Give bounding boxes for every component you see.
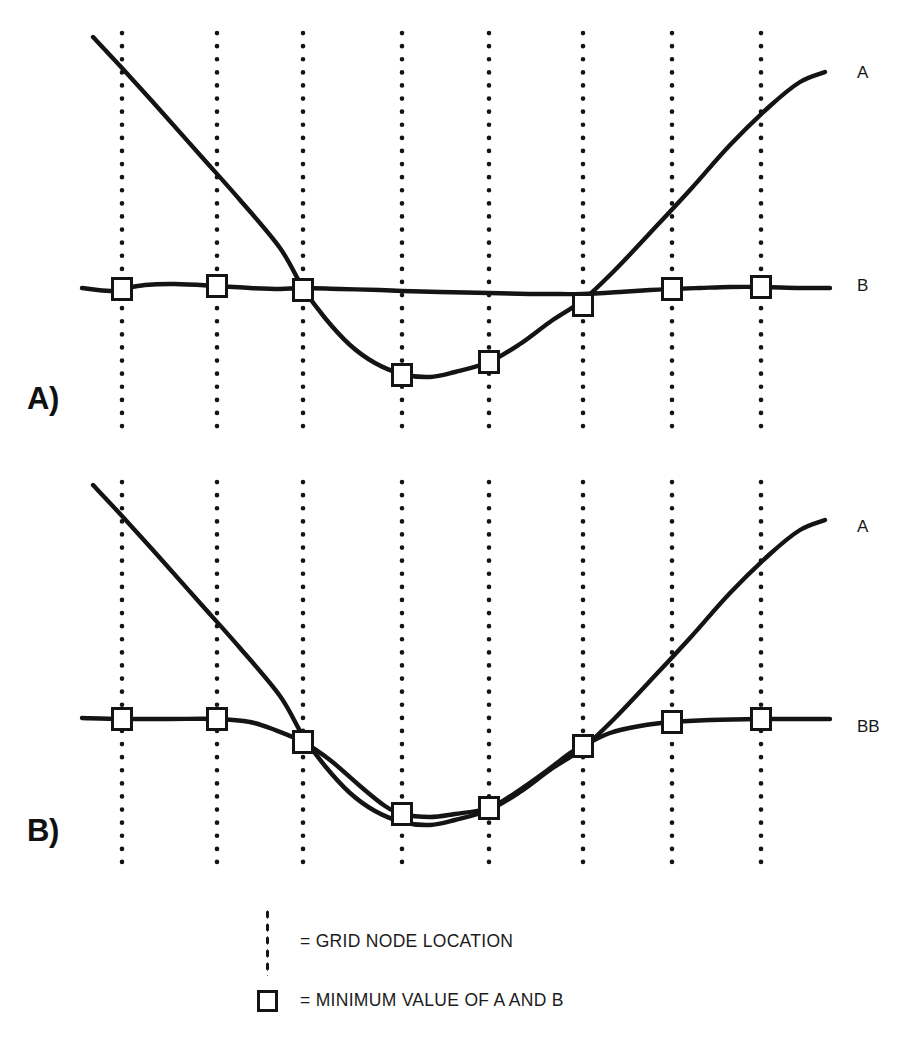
minimum-value-marker-a-2 <box>208 276 227 297</box>
curve-b-a <box>93 485 825 825</box>
minimum-value-marker-b-6 <box>574 736 593 757</box>
marker-group-b <box>113 709 771 825</box>
curve-a-b <box>82 284 830 294</box>
legend-item-grid-node: = GRID NODE LOCATION <box>250 908 513 976</box>
minimum-value-marker-a-7 <box>663 279 682 300</box>
minimum-value-grid-figure: A) A B B) A BB = GRID NODE LOCATION = MI… <box>0 0 911 1057</box>
minimum-value-marker-a-6 <box>574 295 593 316</box>
minimum-value-marker-b-5 <box>480 798 499 819</box>
legend-item-grid-node-label: = GRID NODE LOCATION <box>300 933 513 951</box>
panel-b-curve-label-bb: BB <box>857 718 880 735</box>
series-group-a <box>82 37 830 377</box>
legend-item-minimum-value-label: = MINIMUM VALUE OF A AND B <box>300 992 564 1010</box>
minimum-value-marker-a-4 <box>393 365 412 386</box>
panel-a-curve-label-b: B <box>857 277 868 294</box>
panel-a-curve-label-a: A <box>857 64 868 81</box>
curve-a-a <box>93 37 825 377</box>
minimum-value-marker-a-3 <box>294 280 313 301</box>
panel-a-plot <box>0 0 911 455</box>
grid-node-dotted-line-icon <box>250 908 284 976</box>
legend: = GRID NODE LOCATION = MINIMUM VALUE OF … <box>0 880 911 1040</box>
series-group-b <box>82 485 830 825</box>
minimum-value-marker-b-1 <box>113 709 132 730</box>
grid-node-columns <box>122 482 761 862</box>
minimum-value-square-icon <box>250 990 284 1012</box>
minimum-value-marker-b-4 <box>393 804 412 825</box>
panel-a: A) A B <box>0 0 911 455</box>
minimum-value-marker-a-8 <box>752 277 771 298</box>
panel-b-curve-label-a: A <box>857 518 868 535</box>
minimum-value-marker-b-2 <box>208 709 227 730</box>
panel-a-caption: A) <box>27 383 59 414</box>
panel-b-caption: B) <box>27 815 59 846</box>
bottom-caption-sliver <box>0 1043 911 1057</box>
minimum-value-marker-a-1 <box>113 279 132 300</box>
legend-item-minimum-value: = MINIMUM VALUE OF A AND B <box>250 990 564 1012</box>
minimum-value-marker-a-5 <box>480 352 499 373</box>
minimum-value-marker-b-3 <box>294 732 313 753</box>
panel-b: B) <box>0 455 911 880</box>
minimum-value-marker-b-8 <box>752 709 771 730</box>
panel-b-plot <box>0 455 911 880</box>
minimum-value-marker-b-7 <box>663 712 682 733</box>
curve-b-bb <box>82 718 830 817</box>
